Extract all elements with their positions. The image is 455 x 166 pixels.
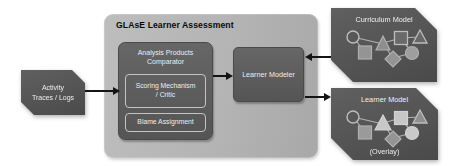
circle-node-icon <box>347 31 359 43</box>
analysis-comparator-label: Analysis Products Comparator <box>119 43 212 66</box>
arrow-learner-modeler-to-learner-model <box>305 96 324 98</box>
circle-node-icon <box>406 47 419 60</box>
overlay-sublabel: (Overlay) <box>331 147 438 156</box>
diamond-node-icon <box>385 51 401 67</box>
triangle-node-icon <box>413 110 427 123</box>
scoring-mechanism-label-line1: Scoring Mechanism <box>126 82 205 91</box>
learner-modeler-box: Learner Modeler <box>233 47 304 102</box>
glase-learner-assessment-container: GLAsE Learner Assessment Analysis Produc… <box>104 14 318 158</box>
analysis-products-comparator-box: Analysis Products Comparator Scoring Mec… <box>118 42 213 140</box>
curriculum-model-label: Curriculum Model <box>331 15 437 24</box>
activity-traces-label: Activity Traces / Logs <box>32 83 74 103</box>
blame-assignment-label: Blame Assignment <box>126 118 205 127</box>
activity-traces-label-line1: Activity <box>32 83 74 93</box>
assessment-title: GLAsE Learner Assessment <box>116 20 234 30</box>
square-node-icon <box>359 46 372 59</box>
blame-assignment-box: Blame Assignment <box>125 113 206 132</box>
activity-traces-logs-body: Activity Traces / Logs <box>21 70 85 115</box>
circle-node-icon <box>406 127 419 140</box>
curriculum-graph <box>331 27 437 77</box>
analysis-comparator-label-line2: Comparator <box>119 57 212 66</box>
circle-node-icon <box>347 111 359 123</box>
arrow-comparator-to-learner-modeler <box>213 75 226 77</box>
analysis-comparator-label-line1: Analysis Products <box>119 48 212 57</box>
arrow-activity-to-assessment <box>85 90 113 92</box>
learner-model-shape: Learner Model (Overlay <box>331 88 438 160</box>
activity-traces-logs-shape: Activity Traces / Logs <box>21 70 85 115</box>
scoring-mechanism-label-line2: / Critic <box>126 91 205 100</box>
square-node-icon <box>395 112 408 125</box>
learner-model-label: Learner Model <box>331 95 438 104</box>
curriculum-model-body: Curriculum Model <box>331 8 437 82</box>
curriculum-model-shape: Curriculum Model <box>331 8 437 82</box>
learner-modeler-label: Learner Modeler <box>242 70 295 79</box>
glase-diagram-canvas: GLAsE Learner Assessment Analysis Produc… <box>0 0 455 166</box>
triangle-node-icon <box>413 30 427 43</box>
scoring-mechanism-critic-box: Scoring Mechanism / Critic <box>125 74 206 108</box>
learner-model-body: Learner Model (Overlay <box>331 88 438 160</box>
square-node-icon <box>359 126 372 139</box>
square-node-icon <box>395 32 408 45</box>
arrow-curriculum-model-to-learner-modeler <box>312 56 331 58</box>
activity-traces-label-line2: Traces / Logs <box>32 93 74 103</box>
diamond-node-icon <box>385 131 401 147</box>
